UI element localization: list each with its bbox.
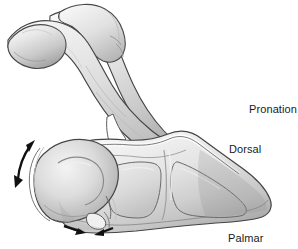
label-dorsal: Dorsal: [229, 143, 261, 156]
label-palmar: Palmar: [228, 232, 263, 245]
anatomy-illustration: [0, 0, 298, 249]
anatomy-figure: Pronation Dorsal Palmar: [0, 0, 298, 249]
label-pronation: Pronation: [249, 103, 297, 116]
